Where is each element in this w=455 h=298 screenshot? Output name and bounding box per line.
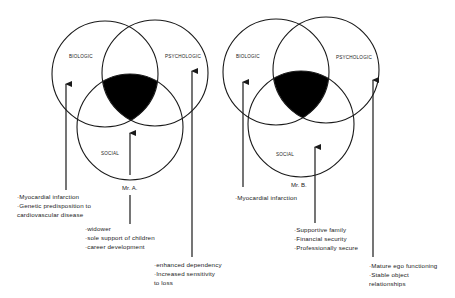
psychologic-circle (273, 17, 379, 123)
social-label: SOCIAL (276, 152, 294, 157)
list-item: to loss (154, 279, 173, 286)
list-item: ·Mature ego functioning (369, 262, 438, 269)
biologic-factors-list: ·Myocardial infarction ·Genetic predispo… (17, 193, 91, 218)
list-item: ·Myocardial infarction (235, 194, 298, 201)
list-item: ·widower (85, 225, 111, 232)
list-item: ·sole support of children (85, 234, 155, 241)
list-item: ·Financial security (294, 235, 347, 242)
list-item: ·Professionally secure (294, 244, 359, 251)
list-item: ·enhanced dependency (154, 261, 222, 268)
psychologic-factors-list: ·enhanced dependency ·Increased sensitiv… (154, 261, 222, 286)
list-item: ·Myocardial infarction (17, 193, 80, 200)
biologic-label: BIOLOGIC (236, 54, 260, 59)
list-item: cardiovascular disease (17, 211, 84, 218)
psychologic-label: PSYCHOLOGIC (165, 54, 201, 59)
list-item: relationships (369, 280, 406, 287)
list-item: ·Genetic predisposition to (17, 202, 91, 209)
social-factors-list: ·Supportive family ·Financial security ·… (294, 226, 359, 251)
list-item: ·Supportive family (294, 226, 347, 233)
biologic-factors-list: ·Myocardial infarction (235, 194, 298, 201)
biologic-label: BIOLOGIC (69, 54, 93, 59)
psychologic-label: PSYCHOLOGIC (336, 55, 372, 60)
psychologic-factors-list: ·Mature ego functioning ·Stable object r… (369, 262, 438, 287)
list-item: ·Stable object (369, 271, 409, 278)
list-item: ·Increased sensitivity (154, 270, 216, 277)
venn-panel-mr-a: BIOLOGIC PSYCHOLOGIC SOCIAL Mr. A. ·Myoc… (17, 20, 222, 286)
biopsychosocial-diagram: BIOLOGIC PSYCHOLOGIC SOCIAL Mr. A. ·Myoc… (0, 0, 455, 298)
social-factors-list: ·widower ·sole support of children ·care… (85, 225, 155, 250)
patient-label: Mr. A. (122, 185, 138, 191)
list-item: ·career development (85, 243, 145, 250)
venn-panel-mr-b: BIOLOGIC PSYCHOLOGIC SOCIAL Mr. B. ·Myoc… (223, 17, 438, 287)
social-label: SOCIAL (101, 151, 119, 156)
biologic-circle (52, 21, 158, 127)
patient-label: Mr. B. (291, 182, 307, 188)
